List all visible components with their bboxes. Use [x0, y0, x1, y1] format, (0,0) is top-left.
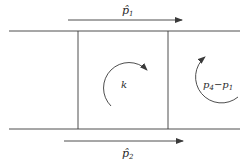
- top-arrow-label: p̂1: [122, 4, 134, 18]
- right-loop-label: p4−p1: [203, 79, 233, 92]
- center-loop-label: k: [121, 79, 127, 90]
- diagram-canvas: p̂1 k p4−p1 p̂2: [0, 0, 245, 163]
- bottom-arrow-label: p̂2: [122, 147, 134, 161]
